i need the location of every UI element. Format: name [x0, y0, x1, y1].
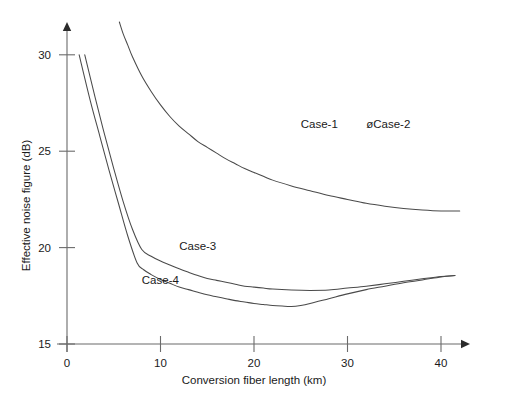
curve-case-1	[119, 22, 459, 211]
x-axis-arrow-icon	[461, 340, 470, 348]
x-tick-label-40: 40	[435, 357, 448, 369]
x-axis-title: Conversion fiber length (km)	[182, 374, 327, 386]
x-tick-label-0: 0	[64, 357, 70, 369]
y-tick-label-25: 25	[38, 145, 51, 157]
line-chart: 15202530010203040Conversion fiber length…	[0, 0, 512, 407]
y-tick-label-15: 15	[38, 338, 51, 350]
curve-case-4	[79, 55, 455, 307]
y-axis-arrow-icon	[63, 22, 71, 31]
annotation-case-3: Case-3	[179, 240, 216, 252]
chart-labels: 15202530010203040Conversion fiber length…	[20, 49, 447, 386]
chart-figure: 15202530010203040Conversion fiber length…	[0, 0, 512, 407]
curve-case-3	[85, 55, 455, 291]
y-axis-title: Effective noise figure (dB)	[20, 140, 32, 272]
x-tick-label-20: 20	[248, 357, 261, 369]
data-curves	[79, 22, 460, 306]
annotation-case-4: Case-4	[142, 274, 180, 286]
annotation-case-1: Case-1	[301, 118, 338, 130]
y-tick-label-20: 20	[38, 242, 51, 254]
x-tick-label-10: 10	[154, 357, 167, 369]
annotation-case-2: øCase-2	[366, 118, 410, 130]
x-tick-label-30: 30	[341, 357, 354, 369]
y-tick-label-30: 30	[38, 49, 51, 61]
